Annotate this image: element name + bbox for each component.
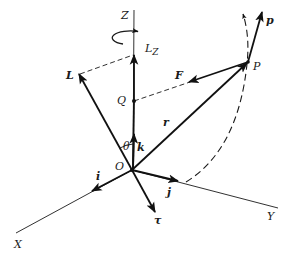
p-momentum-label: p xyxy=(266,14,274,27)
q-label: Q xyxy=(117,94,126,107)
r-vector xyxy=(132,63,247,170)
lz-label-main: L xyxy=(144,42,152,55)
f-vector xyxy=(189,62,248,82)
q-point xyxy=(132,99,136,103)
tau-label: τ xyxy=(154,214,162,227)
angular-momentum-diagram: Z X Y LZ L Q F P p r θ k O i j τ xyxy=(0,0,290,261)
origin-point xyxy=(130,168,134,172)
l-label: L xyxy=(65,69,74,82)
lz-label-sub: Z xyxy=(151,47,159,57)
lz-label: LZ xyxy=(144,42,159,57)
p-vector xyxy=(248,12,262,62)
k-label: k xyxy=(137,141,145,154)
y-axis-label: Y xyxy=(267,210,276,223)
j-label: j xyxy=(165,186,171,199)
r-label: r xyxy=(163,116,170,129)
l-projection-line xyxy=(80,55,133,74)
i-label: i xyxy=(96,170,100,183)
f-label: F xyxy=(174,69,184,82)
j-vector xyxy=(132,170,178,181)
k-arrow xyxy=(133,134,134,170)
tau-vector xyxy=(132,170,155,212)
p-point xyxy=(246,60,250,64)
trajectory-curve xyxy=(186,14,248,182)
z-axis-label: Z xyxy=(120,9,129,22)
theta-label: θ xyxy=(123,140,130,153)
x-axis-label: X xyxy=(13,238,23,251)
q-to-f-line xyxy=(134,82,190,101)
p-point-label: P xyxy=(252,60,261,73)
l-vector xyxy=(79,74,132,170)
origin-label: O xyxy=(115,160,124,173)
